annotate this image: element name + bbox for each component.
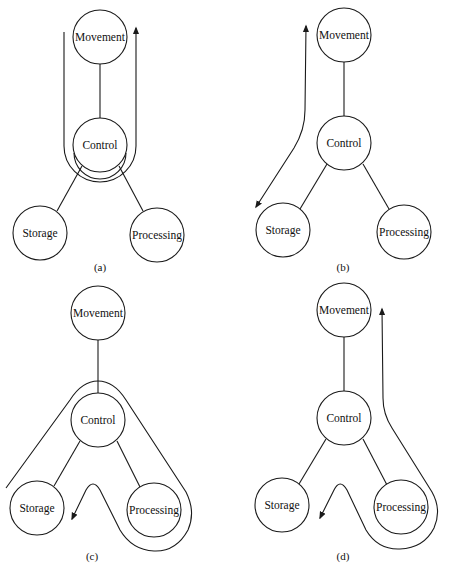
panel-c: Movement Control Storage Processing (c) [6,286,192,563]
node-movement: Movement [317,283,371,337]
panel-a: Movement Control Storage Processing (a) [13,10,184,274]
node-processing: Processing [374,480,428,534]
svg-text:Movement: Movement [319,29,370,41]
svg-text:Storage: Storage [264,499,299,512]
edge-control-processing [363,439,387,485]
node-control: Control [71,393,125,447]
panel-label-d: (d) [337,550,350,563]
node-control: Control [317,116,371,170]
panel-label-b: (b) [337,261,350,274]
flow-path-bidirectional [256,26,306,207]
svg-text:Processing: Processing [379,226,429,239]
figure: Movement Control Storage Processing (a) … [0,0,449,576]
svg-text:Processing: Processing [129,504,179,517]
svg-text:Movement: Movement [75,31,126,43]
node-processing: Processing [377,205,431,259]
edge-control-storage [54,441,80,486]
svg-text:Storage: Storage [22,227,57,240]
node-storage: Storage [13,206,67,260]
node-storage: Storage [10,481,64,535]
node-storage: Storage [255,478,309,532]
panel-label-c: (c) [86,550,99,563]
edge-control-storage [299,439,326,484]
edge-control-storage [57,166,82,211]
node-movement: Movement [71,286,125,340]
node-control: Control [73,118,127,172]
edge-control-processing [117,441,140,487]
svg-text:Control: Control [326,137,361,149]
node-processing: Processing [130,208,184,262]
svg-text:Processing: Processing [376,501,426,514]
edge-control-processing [119,166,143,211]
edge-control-processing [363,164,389,209]
svg-text:Storage: Storage [19,502,54,515]
svg-text:Control: Control [80,414,115,426]
node-control: Control [317,391,371,445]
panel-b: Movement Control Storage Processing (b) [256,8,431,274]
node-movement: Movement [73,10,127,64]
svg-text:Movement: Movement [319,304,370,316]
node-processing: Processing [127,483,181,537]
node-storage: Storage [256,203,310,257]
svg-text:Movement: Movement [73,307,124,319]
node-movement: Movement [317,8,371,62]
panel-d: Movement Control Storage Processing (d) [255,283,438,563]
edge-control-storage [300,164,327,209]
panel-label-a: (a) [94,261,107,274]
svg-text:Storage: Storage [265,224,300,237]
svg-text:Processing: Processing [132,229,182,242]
svg-text:Control: Control [326,412,361,424]
svg-text:Control: Control [82,139,117,151]
